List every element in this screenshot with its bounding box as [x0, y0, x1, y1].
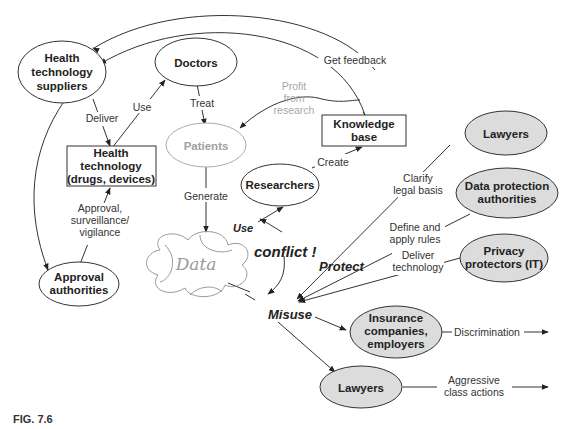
edge-suppliers-approval	[34, 100, 65, 270]
label-misuse: Misuse	[268, 307, 312, 322]
label-deliver-tech-1: Deliver	[402, 249, 435, 261]
label-clarify-2: legal basis	[393, 184, 443, 196]
svg-text:authorities: authorities	[50, 284, 109, 296]
label-aggressive-2: class actions	[444, 386, 504, 398]
svg-text:Lawyers: Lawyers	[483, 128, 529, 140]
label-profit-1: Profit	[282, 80, 307, 92]
svg-text:Data: Data	[175, 254, 217, 274]
label-aggressive-1: Aggressive	[448, 374, 500, 386]
svg-text:authorities: authorities	[478, 193, 537, 205]
svg-text:Lawyers: Lawyers	[338, 382, 384, 394]
svg-text:Health: Health	[44, 52, 79, 64]
svg-text:Knowledge: Knowledge	[333, 118, 394, 130]
label-use-doctors: Use	[133, 101, 152, 113]
edge-misuse-data-2	[245, 294, 255, 300]
node-privacy-protectors: Privacy protectors (IT)	[460, 234, 548, 282]
node-lawyers-protect: Lawyers	[465, 111, 547, 155]
label-generate: Generate	[184, 190, 228, 202]
svg-text:(drugs, devices): (drugs, devices)	[67, 173, 155, 185]
label-clarify-1: Clarify	[403, 172, 434, 184]
label-approval-2: surveillance/	[71, 214, 129, 226]
label-approval-1: Approval,	[78, 202, 122, 214]
edge-conflict-down	[268, 256, 284, 294]
svg-text:technology: technology	[80, 160, 142, 172]
label-get-feedback: Get feedback	[324, 54, 387, 66]
svg-text:Researchers: Researchers	[245, 179, 314, 191]
label-treat: Treat	[190, 97, 214, 109]
figure-label: FIG. 7.6	[13, 413, 53, 425]
label-conflict: conflict !	[254, 243, 317, 260]
arrow-feedback-head	[93, 48, 97, 50]
svg-text:Patients: Patients	[184, 140, 229, 152]
label-use-data: Use	[233, 222, 253, 234]
label-discrimination: Discrimination	[454, 326, 520, 338]
node-patients: Patients	[166, 123, 246, 167]
svg-text:companies,: companies,	[364, 325, 427, 337]
label-profit-2: from	[284, 92, 305, 104]
edge-conflict-up	[260, 219, 282, 232]
node-knowledge-base: Knowledge base	[322, 115, 406, 146]
node-health-technology: Health technology (drugs, devices)	[67, 146, 156, 186]
label-approval-3: vigilance	[80, 226, 121, 238]
label-define-2: apply rules	[390, 233, 441, 245]
svg-text:base: base	[351, 131, 377, 143]
label-deliver-tech-2: technology	[393, 261, 445, 273]
diagram-canvas: Health technology suppliers Doctors Pati…	[0, 0, 564, 429]
svg-text:technology: technology	[31, 66, 93, 78]
svg-text:Approval: Approval	[54, 271, 104, 283]
label-profit-3: research	[274, 104, 315, 116]
edge-misuse-data	[228, 283, 250, 292]
node-data: Data	[146, 232, 247, 297]
edge-misuse-insurance	[315, 317, 346, 330]
svg-text:employers: employers	[367, 338, 425, 350]
label-deliver: Deliver	[86, 112, 119, 124]
node-health-tech-suppliers: Health technology suppliers	[18, 41, 106, 103]
svg-text:Data protection: Data protection	[465, 180, 549, 192]
edge-profit-start	[318, 98, 360, 101]
label-define-1: Define and	[390, 221, 441, 233]
node-lawyers-misuse: Lawyers	[320, 366, 402, 408]
svg-text:Health: Health	[93, 147, 128, 159]
node-doctors: Doctors	[155, 38, 237, 86]
node-researchers: Researchers	[241, 164, 319, 206]
svg-text:Privacy: Privacy	[484, 245, 526, 257]
svg-text:protectors (IT): protectors (IT)	[465, 258, 543, 270]
svg-text:suppliers: suppliers	[36, 80, 87, 92]
node-data-protection-authorities: Data protection authorities	[456, 168, 558, 218]
label-create: Create	[317, 156, 349, 168]
node-insurance: Insurance companies, employers	[350, 306, 442, 358]
edge-misuse-lawyers	[278, 322, 335, 372]
node-approval-authorities: Approval authorities	[39, 262, 119, 306]
svg-text:Insurance: Insurance	[369, 312, 423, 324]
label-protect: Protect	[319, 259, 364, 274]
svg-text:Doctors: Doctors	[174, 57, 217, 69]
